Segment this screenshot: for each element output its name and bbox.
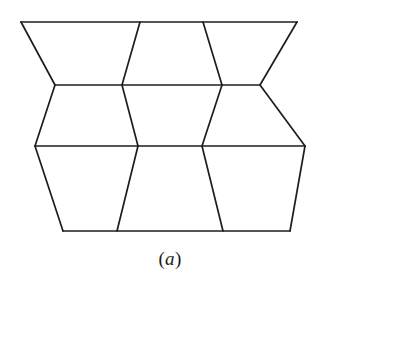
caption-letter: a (165, 248, 175, 269)
tessellation-faces (21, 22, 305, 231)
caption-close-paren: ) (175, 248, 182, 269)
cell-mid-left (35, 85, 138, 146)
figure-caption: (a) (0, 248, 340, 270)
figure-container: (a) (0, 0, 397, 356)
tessellation-diagram (0, 0, 397, 356)
